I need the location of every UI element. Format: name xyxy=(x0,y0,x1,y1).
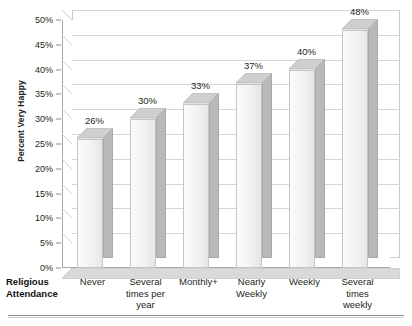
bar-side-face xyxy=(209,94,219,258)
gridline-depth-connector xyxy=(62,10,72,20)
bar-value-label: 37% xyxy=(224,60,284,71)
y-axis-tick-mark xyxy=(56,144,61,145)
gridline-depth-connector xyxy=(62,184,72,194)
bar-front-face xyxy=(236,84,262,268)
bar-side-face xyxy=(103,129,113,258)
bar[interactable] xyxy=(342,20,378,268)
x-axis-category-label-line: weekly xyxy=(319,299,397,311)
y-axis-tick-label: 10% xyxy=(13,213,53,223)
x-axis-category-label: Severaltimesweekly xyxy=(319,276,397,311)
y-axis-tick-mark xyxy=(56,168,61,169)
x-axis-category-label-line: Several xyxy=(319,276,397,288)
bar[interactable] xyxy=(236,74,272,268)
x-axis-category-label-line: times xyxy=(319,288,397,300)
bar-front-face xyxy=(342,30,368,268)
y-axis-tick-mark xyxy=(56,218,61,219)
x-axis-category-label-line: Weekly xyxy=(213,288,291,300)
bar[interactable] xyxy=(183,94,219,268)
bar[interactable] xyxy=(289,60,325,268)
gridline-depth-connector xyxy=(62,60,72,70)
y-axis-tick-mark xyxy=(56,20,61,21)
x-axis-category-label-line: times per xyxy=(107,288,185,300)
gridline-depth-connector xyxy=(62,35,72,45)
bar-side-face xyxy=(156,109,166,258)
y-axis-tick-label: 20% xyxy=(13,164,53,174)
y-axis-tick-label: 15% xyxy=(13,189,53,199)
y-axis-tick-mark xyxy=(56,69,61,70)
plot-area: 26%30%33%37%40%48% xyxy=(62,20,390,268)
bar-value-label: 26% xyxy=(65,115,125,126)
gridline-depth-connector xyxy=(62,208,72,218)
bar-top-face xyxy=(183,93,219,104)
gridline-depth-connector xyxy=(62,84,72,94)
y-axis-tick-mark xyxy=(56,268,61,269)
bar-value-label: 30% xyxy=(118,95,178,106)
bar-value-label: 48% xyxy=(330,6,390,17)
bar-top-face xyxy=(236,73,272,84)
y-axis-tick-label: 30% xyxy=(13,114,53,124)
bar-top-face xyxy=(289,59,325,70)
bar-side-face xyxy=(262,74,272,258)
gridline-depth-connector xyxy=(62,233,72,243)
y-axis-tick-label: 0% xyxy=(13,263,53,273)
bar[interactable] xyxy=(77,129,113,268)
y-axis-tick-label: 45% xyxy=(13,40,53,50)
y-axis-tick-mark xyxy=(56,243,61,244)
bar-side-face xyxy=(315,60,325,258)
bar-value-label: 40% xyxy=(277,46,337,57)
gridline-depth-connector xyxy=(62,134,72,144)
y-axis-tick-label: 40% xyxy=(13,65,53,75)
bottom-divider xyxy=(8,315,404,316)
bar-side-face xyxy=(368,20,378,258)
gridline-depth-connector xyxy=(62,159,72,169)
bar-chart: Percent Very Happy 0%5%10%15%20%25%30%35… xyxy=(0,0,412,326)
bar-front-face xyxy=(183,104,209,268)
y-axis-tick-label: 35% xyxy=(13,89,53,99)
bar-top-face xyxy=(77,128,113,139)
bar[interactable] xyxy=(130,109,166,268)
y-axis-tick-label: 5% xyxy=(13,238,53,248)
y-axis-tick-mark xyxy=(56,44,61,45)
bar-front-face xyxy=(130,119,156,268)
x-axis-title-line2: Attendance xyxy=(6,288,72,300)
x-axis-category-label-line: year xyxy=(107,299,185,311)
bar-value-label: 33% xyxy=(171,80,231,91)
y-axis-tick-mark xyxy=(56,119,61,120)
y-axis-tick-mark xyxy=(56,94,61,95)
y-axis-tick-label: 50% xyxy=(13,15,53,25)
bar-top-face xyxy=(342,19,378,30)
bar-front-face xyxy=(289,70,315,268)
bottom-divider-shadow xyxy=(8,317,404,318)
bar-front-face xyxy=(77,139,103,268)
bar-top-face xyxy=(130,108,166,119)
y-axis-tick-label: 25% xyxy=(13,139,53,149)
y-axis-tick-mark xyxy=(56,193,61,194)
